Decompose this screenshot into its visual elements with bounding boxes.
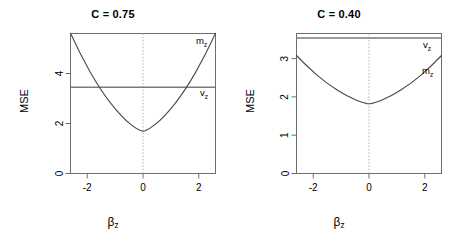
- series-label-vz-left: vz: [200, 87, 208, 100]
- series-label-mz-right-base: m: [422, 65, 430, 76]
- series-label-vz-right-subscript: z: [428, 45, 431, 52]
- series-label-mz-left-base: m: [196, 35, 204, 46]
- y-ticks-right: [292, 59, 297, 174]
- y-tick-label-right-0: 0: [280, 170, 291, 176]
- y-tick-label-left-0: 0: [54, 170, 65, 176]
- y-ticks-left: [66, 74, 71, 174]
- figure-canvas: C = 0.75 MSE βz: [0, 0, 452, 238]
- plot-panel-left: C = 0.75 MSE βz: [0, 0, 226, 238]
- x-ticks-left: [87, 174, 199, 179]
- x-tick-label-left-2: 2: [196, 182, 202, 193]
- series-label-vz-left-subscript: z: [205, 93, 208, 100]
- plot-area-right: 0 1 2 3 -2 0 2 vz mz: [226, 0, 452, 238]
- y-tick-label-left-4: 4: [54, 70, 65, 76]
- x-tick-label-right-0: 0: [366, 182, 372, 193]
- x-ticks-right: [313, 174, 425, 179]
- y-tick-label-right-2: 2: [280, 94, 291, 100]
- series-label-mz-left: mz: [196, 35, 207, 48]
- x-tick-label-right-2: 2: [422, 182, 428, 193]
- series-label-mz-right-subscript: z: [430, 71, 433, 78]
- y-tick-label-right-1: 1: [280, 132, 291, 138]
- y-tick-label-left-2: 2: [54, 120, 65, 126]
- series-label-vz-right: vz: [423, 39, 431, 52]
- plot-area-left: 0 2 4 -2 0 2 mz vz: [0, 0, 226, 238]
- series-label-mz-left-subscript: z: [204, 41, 207, 48]
- x-tick-label-right-neg2: -2: [309, 182, 318, 193]
- x-tick-label-left-neg2: -2: [83, 182, 92, 193]
- y-tick-label-right-3: 3: [280, 55, 291, 61]
- plot-panel-right: C = 0.40 MSE βz: [226, 0, 452, 238]
- series-label-mz-right: mz: [422, 65, 433, 78]
- x-tick-label-left-0: 0: [140, 182, 146, 193]
